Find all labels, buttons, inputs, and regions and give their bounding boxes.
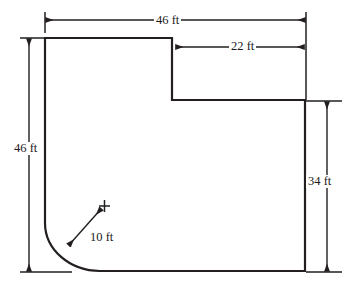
- shape-path: [45, 38, 305, 271]
- extension-lines: [20, 12, 342, 272]
- geometry-diagram: 46 ft 22 ft 46 ft 34 ft 10 ft: [0, 0, 355, 290]
- shape-outline: [45, 38, 305, 271]
- dimension-label-corner-radius: 10 ft: [88, 231, 115, 244]
- dimension-label-left-height: 46 ft: [12, 142, 39, 155]
- dimension-label-right-height: 34 ft: [306, 175, 333, 188]
- figure-svg: [0, 0, 355, 290]
- dimension-label-notch-width: 22 ft: [229, 40, 256, 53]
- dimension-label-top-width: 46 ft: [154, 14, 181, 27]
